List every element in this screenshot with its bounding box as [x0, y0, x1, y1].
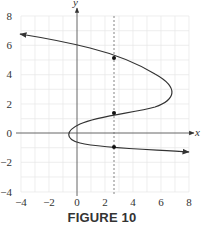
svg-text:−4: −4 — [0, 186, 12, 198]
svg-text:6: 6 — [158, 196, 164, 208]
svg-text:8: 8 — [7, 10, 13, 22]
intersection-point — [112, 111, 116, 115]
chart: x y −4 −2 0 2 4 6 8 −4 −2 0 2 4 6 8 — [0, 0, 204, 231]
svg-text:−2: −2 — [43, 196, 55, 208]
y-tick-labels: −4 −2 0 2 4 6 8 — [0, 10, 12, 198]
svg-text:2: 2 — [7, 98, 13, 110]
svg-text:8: 8 — [186, 196, 192, 208]
svg-text:4: 4 — [7, 68, 13, 80]
svg-text:−2: −2 — [0, 156, 12, 168]
figure-caption: FIGURE 10 — [0, 210, 204, 225]
x-axis-label: x — [194, 126, 200, 138]
svg-text:6: 6 — [7, 39, 13, 51]
svg-text:0: 0 — [74, 196, 80, 208]
intersection-point — [112, 145, 116, 149]
svg-text:−4: −4 — [15, 196, 27, 208]
x-tick-labels: −4 −2 0 2 4 6 8 — [15, 196, 192, 208]
svg-text:2: 2 — [102, 196, 108, 208]
svg-text:4: 4 — [130, 196, 136, 208]
svg-text:0: 0 — [7, 127, 13, 139]
y-axis-label: y — [72, 0, 78, 8]
grid — [21, 16, 189, 192]
intersection-point — [112, 56, 116, 60]
curve — [20, 34, 189, 152]
